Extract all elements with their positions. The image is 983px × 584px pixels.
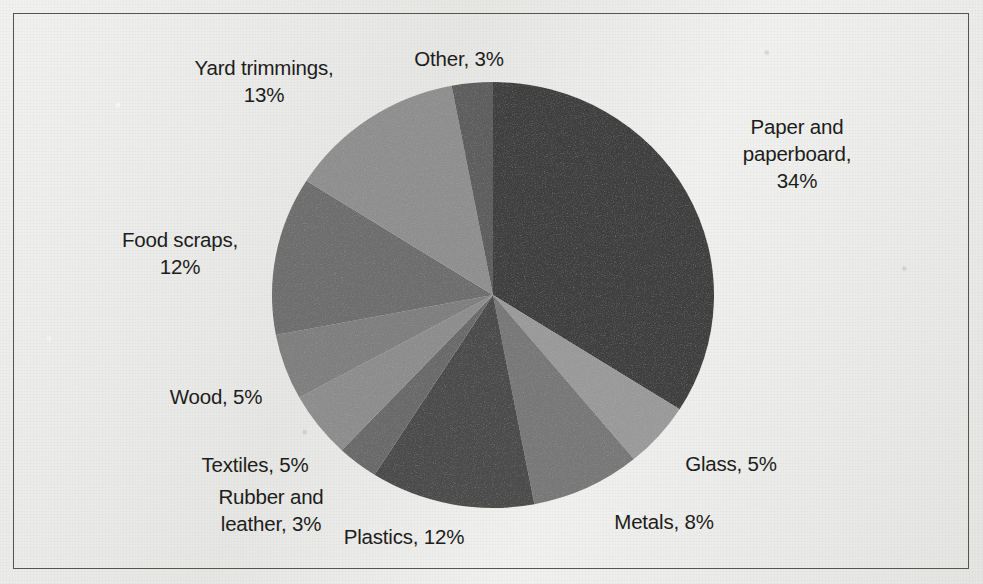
pie-label-plastics: Plastics, 12% — [344, 523, 464, 550]
pie-label-glass: Glass, 5% — [685, 450, 777, 477]
pie-label-metals: Metals, 8% — [614, 508, 713, 535]
chart-page: Paper and paperboard, 34% Glass, 5% Meta… — [0, 0, 983, 584]
pie-label-wood: Wood, 5% — [170, 383, 263, 410]
pie-label-other: Other, 3% — [414, 45, 503, 72]
pie-chart-svg — [0, 0, 983, 584]
pie-label-textiles: Textiles, 5% — [202, 451, 309, 478]
pie-slice-group — [272, 82, 714, 508]
pie-label-food-scraps: Food scraps, 12% — [122, 226, 238, 280]
pie-label-yard-trimmings: Yard trimmings, 13% — [194, 54, 333, 108]
pie-chart: Paper and paperboard, 34% Glass, 5% Meta… — [0, 0, 983, 584]
pie-label-rubber-and-leather: Rubber and leather, 3% — [218, 483, 323, 537]
pie-label-paper-and-paperboard: Paper and paperboard, 34% — [743, 113, 851, 194]
